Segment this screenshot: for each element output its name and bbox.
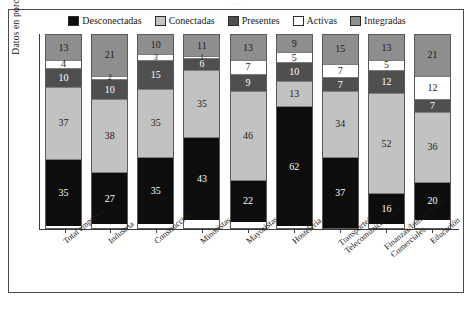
- bar-segment-value: 35: [151, 118, 161, 128]
- bar-segment-value: 10: [289, 67, 299, 77]
- bar-segment-value: 12: [381, 77, 391, 87]
- legend-label: Presentes: [242, 16, 280, 26]
- bar-segment-value: 35: [151, 186, 161, 196]
- bar-segment-integradas[interactable]: 13: [369, 35, 404, 60]
- bar-segment-conectadas[interactable]: 38: [92, 99, 127, 172]
- x-axis-tick: [432, 229, 433, 233]
- bar-segment-activas[interactable]: 5: [369, 60, 404, 70]
- bar-segment-value: 11: [197, 41, 207, 51]
- legend-item: Activas: [293, 16, 338, 26]
- bar-segment-integradas[interactable]: 9: [277, 35, 312, 52]
- bar-segment-value: 9: [292, 39, 297, 49]
- bar-segment-conectadas[interactable]: 46: [231, 91, 266, 180]
- bar-segment-integradas[interactable]: 21: [92, 35, 127, 76]
- bar-segment-value: 21: [105, 50, 115, 60]
- legend-swatch-icon: [155, 16, 166, 26]
- plot-area: 1341037352121038271031535351116354313794…: [39, 34, 457, 229]
- legend-swatch-icon: [228, 16, 239, 26]
- bar-segment-presentes[interactable]: 10: [46, 68, 81, 87]
- x-axis-tick: [110, 229, 111, 233]
- chart-legend: DesconectadasConectadasPresentesActivasI…: [9, 14, 465, 28]
- figure-caption: [8, 298, 468, 312]
- bar-segment-value: 34: [335, 119, 345, 129]
- bar-segment-presentes[interactable]: 7: [323, 77, 358, 91]
- bar-segment-value: 21: [428, 50, 438, 60]
- bar-segment-value: 10: [59, 73, 69, 83]
- bar-segment-desconectadas[interactable]: 35: [46, 159, 81, 227]
- bar-segment-value: 6: [199, 59, 204, 69]
- bar-segment-integradas[interactable]: 21: [415, 35, 450, 76]
- legend-label: Activas: [307, 16, 338, 26]
- bar-segment-conectadas[interactable]: 35: [184, 70, 219, 138]
- bar-segment-integradas[interactable]: 13: [46, 35, 81, 60]
- bar-column[interactable]: 15773437: [322, 34, 359, 229]
- bar-segment-presentes[interactable]: 6: [184, 58, 219, 70]
- bar-segment-value: 7: [338, 66, 343, 76]
- bar-segment-value: 7: [430, 101, 435, 111]
- bar-segment-desconectadas[interactable]: 22: [231, 180, 266, 222]
- bar-segment-value: 43: [197, 174, 207, 184]
- bar-segment-conectadas[interactable]: 35: [138, 89, 173, 157]
- bar-segment-value: 27: [105, 194, 115, 204]
- x-axis-tick: [202, 229, 203, 233]
- bar-segment-activas[interactable]: 4: [46, 60, 81, 68]
- legend-label: Conectadas: [169, 16, 215, 26]
- bar-segment-activas[interactable]: 5: [277, 52, 312, 62]
- bar-segment-value: 38: [105, 131, 115, 141]
- bar-segment-conectadas[interactable]: 34: [323, 91, 358, 157]
- bar-segment-value: 37: [335, 188, 345, 198]
- bar-segment-integradas[interactable]: 13: [231, 35, 266, 60]
- bar-segment-conectadas[interactable]: 37: [46, 87, 81, 158]
- bar-column[interactable]: 11163543: [183, 34, 220, 229]
- bar-segment-presentes[interactable]: 7: [415, 99, 450, 113]
- legend-item: Desconectadas: [68, 16, 141, 26]
- legend-swatch-icon: [293, 16, 304, 26]
- bar-segment-presentes[interactable]: 10: [92, 79, 127, 98]
- bar-segment-desconectadas[interactable]: 37: [323, 157, 358, 228]
- bar-column[interactable]: 134103735: [45, 34, 82, 229]
- bar-column[interactable]: 212103827: [91, 34, 128, 229]
- bar-segment-presentes[interactable]: 9: [231, 74, 266, 91]
- bar-segment-integradas[interactable]: 11: [184, 35, 219, 56]
- bar-segment-activas[interactable]: 7: [323, 64, 358, 78]
- bar-segment-conectadas[interactable]: 36: [415, 112, 450, 181]
- x-axis-tick: [340, 229, 341, 233]
- x-axis-category-labels: Total empresasIndustriaConstrucciónMinor…: [39, 234, 459, 294]
- bar-segment-value: 13: [289, 89, 299, 99]
- bar-segment-desconectadas[interactable]: 35: [138, 157, 173, 225]
- bar-segment-value: 35: [59, 188, 69, 198]
- bar-segment-value: 35: [197, 99, 207, 109]
- legend-item: Conectadas: [155, 16, 215, 26]
- x-axis-tick: [294, 229, 295, 233]
- bar-segment-activas[interactable]: 7: [231, 60, 266, 74]
- bar-segment-value: 22: [243, 196, 253, 206]
- bar-segment-presentes[interactable]: 12: [369, 70, 404, 93]
- bar-segment-value: 10: [151, 40, 161, 50]
- bar-segment-conectadas[interactable]: 52: [369, 93, 404, 193]
- bar-segment-presentes[interactable]: 15: [138, 60, 173, 89]
- legend-label: Desconectadas: [82, 16, 141, 26]
- bar-column[interactable]: 103153535: [137, 34, 174, 229]
- x-axis-tick: [248, 229, 249, 233]
- y-axis-title: Datos en porcentaje: [11, 0, 23, 70]
- x-axis-tick: [156, 229, 157, 233]
- bar-segment-presentes[interactable]: 10: [277, 62, 312, 81]
- bar-segment-integradas[interactable]: 10: [138, 35, 173, 54]
- bar-segment-value: 15: [335, 44, 345, 54]
- bar-segment-value: 13: [243, 43, 253, 53]
- bar-segment-desconectadas[interactable]: 62: [277, 106, 312, 226]
- bar-segment-value: 7: [338, 80, 343, 90]
- bar-segment-value: 13: [59, 43, 69, 53]
- legend-item: Presentes: [228, 16, 280, 26]
- top-text-fragment: · · · ·: [0, 0, 474, 9]
- x-axis-tick: [386, 229, 387, 233]
- bar-segment-integradas[interactable]: 15: [323, 35, 358, 64]
- bar-column[interactable]: 13794622: [230, 34, 267, 229]
- bar-column[interactable]: 95101362: [276, 34, 313, 229]
- bar-segment-conectadas[interactable]: 13: [277, 81, 312, 106]
- bar-segment-value: 15: [151, 70, 161, 80]
- legend-label: Integradas: [364, 16, 406, 26]
- bar-segment-activas[interactable]: 12: [415, 76, 450, 99]
- bar-segment-value: 12: [428, 83, 438, 93]
- bar-segment-desconectadas[interactable]: 43: [184, 137, 219, 220]
